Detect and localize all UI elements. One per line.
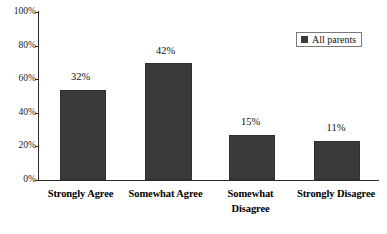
bar-strongly-disagree <box>314 141 360 180</box>
category-label-somewhat-agree: Somewhat Agree <box>123 186 208 201</box>
bar-value-somewhat-agree: 42% <box>156 46 175 57</box>
legend: All parents <box>296 32 362 47</box>
y-tick-label-20: 20% <box>2 142 36 152</box>
bar-somewhat-agree <box>145 63 192 180</box>
legend-square-marker-icon <box>301 36 308 43</box>
bar-group-somewhat-disagree: 15% <box>208 12 293 180</box>
category-label-strongly-disagree: Strongly Disagree <box>293 186 379 201</box>
y-axis-ticks: 100% 80% 60% 40% 20% 0% <box>0 0 36 234</box>
y-tick-label-40: 40% <box>2 108 36 118</box>
bar-value-strongly-disagree: 11% <box>327 123 346 134</box>
bar-group-somewhat-agree: 42% <box>123 12 208 180</box>
bar-value-somewhat-disagree: 15% <box>241 117 260 128</box>
bar-chart: 100% 80% 60% 40% 20% 0% 32% 42% 15% <box>0 0 387 234</box>
x-axis-line <box>38 180 379 181</box>
legend-label-all-parents: All parents <box>312 35 356 45</box>
bar-group-strongly-agree: 32% <box>38 12 123 180</box>
x-axis-category-labels: Strongly Agree Somewhat Agree Somewhat D… <box>38 186 379 232</box>
bar-strongly-agree <box>60 90 106 180</box>
bar-somewhat-disagree <box>229 135 275 180</box>
category-label-somewhat-disagree: Somewhat Disagree <box>208 186 293 216</box>
category-label-strongly-agree: Strongly Agree <box>38 186 123 201</box>
y-tick-label-0: 0% <box>2 175 36 185</box>
y-tick-label-80: 80% <box>2 41 36 51</box>
bar-value-strongly-agree: 32% <box>71 72 90 83</box>
y-tick-label-60: 60% <box>2 74 36 84</box>
y-tick-label-100: 100% <box>2 7 36 17</box>
